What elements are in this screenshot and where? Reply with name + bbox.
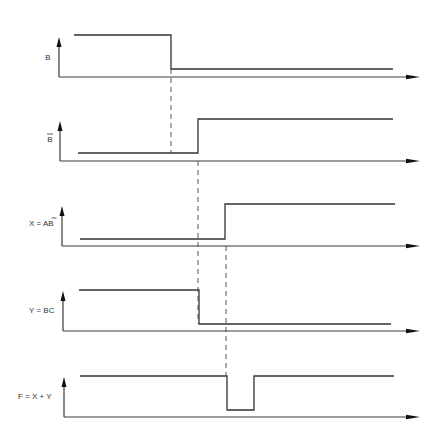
- waveform: [80, 204, 395, 239]
- label-y: Y = BC: [29, 306, 55, 315]
- y-axis-arrow-icon: [62, 377, 67, 387]
- y-axis-arrow-icon: [58, 121, 63, 131]
- waveform: [80, 376, 394, 410]
- svg-text:B: B: [47, 135, 52, 144]
- waveform: [78, 119, 393, 153]
- guides-layer: [171, 69, 226, 376]
- time-axis-arrow-icon: [406, 75, 420, 79]
- y-axis-arrow-icon: [57, 37, 62, 47]
- signal-f: [62, 376, 421, 419]
- waveform: [79, 290, 391, 324]
- time-axis-arrow-icon: [406, 244, 420, 248]
- svg-text:X = AB: X = AB: [29, 219, 54, 228]
- signal-b-bar: [58, 119, 421, 163]
- timing-diagram: B B X = AB Y = BC F = X + Y: [0, 0, 444, 440]
- time-axis-arrow-icon: [406, 415, 420, 419]
- signal-x: [60, 204, 421, 248]
- y-axis-arrow-icon: [60, 206, 65, 216]
- time-axis-arrow-icon: [406, 159, 420, 163]
- label-x: X = AB: [29, 218, 57, 228]
- signal-y: [61, 290, 421, 333]
- signals-layer: [57, 35, 421, 419]
- waveform: [74, 35, 393, 69]
- label-f: F = X + Y: [18, 392, 52, 401]
- y-axis-arrow-icon: [61, 291, 66, 301]
- time-axis-arrow-icon: [406, 329, 420, 333]
- label-b-bar: B: [47, 134, 53, 144]
- signal-b: [57, 35, 421, 79]
- label-b: B: [45, 53, 50, 62]
